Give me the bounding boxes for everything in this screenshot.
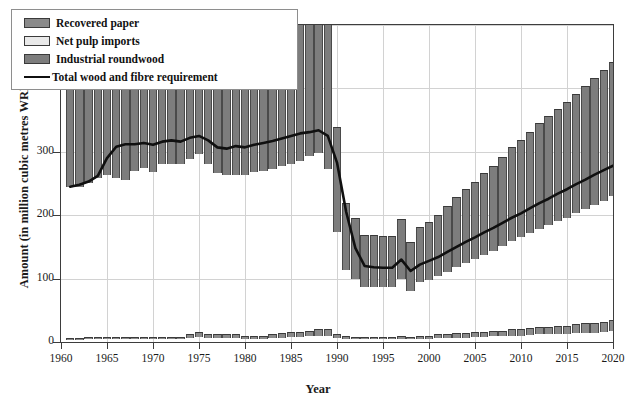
x-tick-mark bbox=[383, 343, 384, 349]
x-tick-label: 1960 bbox=[38, 352, 84, 364]
x-tick-mark bbox=[107, 343, 108, 349]
x-tick-label: 2000 bbox=[406, 352, 452, 364]
x-tick-mark bbox=[613, 343, 614, 349]
legend-label-net-pulp-imports: Net pulp imports bbox=[56, 35, 140, 47]
x-tick-mark bbox=[291, 343, 292, 349]
x-tick-label: 1965 bbox=[84, 352, 130, 364]
y-tick-mark bbox=[53, 342, 60, 343]
x-tick-mark bbox=[61, 343, 62, 349]
legend-item-industrial-roundwood: Industrial roundwood bbox=[24, 50, 297, 68]
x-tick-label: 2015 bbox=[544, 352, 590, 364]
chart-figure: Amount (in million cubic metres WRME) Ye… bbox=[0, 0, 636, 406]
legend-line-icon-total-requirement bbox=[24, 76, 50, 78]
y-tick-label: 200 bbox=[14, 207, 54, 219]
legend-label-industrial-roundwood: Industrial roundwood bbox=[56, 53, 164, 65]
legend-label-total-requirement: Total wood and fibre requirement bbox=[52, 71, 218, 83]
legend-swatch-icon-net-pulp-imports bbox=[24, 36, 50, 46]
x-tick-mark bbox=[199, 343, 200, 349]
legend-item-net-pulp-imports: Net pulp imports bbox=[24, 32, 297, 50]
x-tick-mark bbox=[567, 343, 568, 349]
x-tick-label: 1990 bbox=[314, 352, 360, 364]
legend-item-total-requirement: Total wood and fibre requirement bbox=[24, 68, 297, 86]
x-tick-mark bbox=[475, 343, 476, 349]
y-tick-mark bbox=[53, 215, 60, 216]
x-tick-label: 1995 bbox=[360, 352, 406, 364]
total-requirement-line bbox=[70, 130, 613, 271]
x-tick-label: 2005 bbox=[452, 352, 498, 364]
x-axis-title: Year bbox=[0, 382, 636, 397]
x-tick-mark bbox=[245, 343, 246, 349]
x-tick-label: 1975 bbox=[176, 352, 222, 364]
x-tick-label: 1970 bbox=[130, 352, 176, 364]
chart-legend: Recovered paper Net pulp imports Industr… bbox=[11, 9, 298, 90]
y-tick-mark bbox=[53, 279, 60, 280]
legend-swatch-icon-industrial-roundwood bbox=[24, 54, 50, 64]
legend-swatch-icon-recovered-paper bbox=[24, 18, 50, 28]
gridline-vertical bbox=[613, 25, 614, 342]
x-tick-label: 2020 bbox=[590, 352, 636, 364]
x-tick-label: 2010 bbox=[498, 352, 544, 364]
y-tick-mark bbox=[53, 152, 60, 153]
x-tick-mark bbox=[429, 343, 430, 349]
x-tick-label: 1980 bbox=[222, 352, 268, 364]
y-tick-label: 100 bbox=[14, 271, 54, 283]
y-tick-label: 0 bbox=[14, 334, 54, 346]
x-tick-mark bbox=[337, 343, 338, 349]
x-tick-label: 1985 bbox=[268, 352, 314, 364]
x-tick-mark bbox=[153, 343, 154, 349]
x-tick-mark bbox=[521, 343, 522, 349]
legend-label-recovered-paper: Recovered paper bbox=[56, 17, 139, 29]
y-tick-label: 300 bbox=[14, 144, 54, 156]
legend-item-recovered-paper: Recovered paper bbox=[24, 14, 297, 32]
